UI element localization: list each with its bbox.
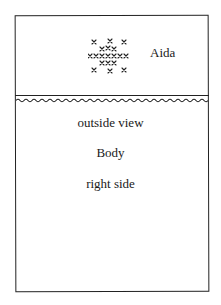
- fabric-label: Aida: [150, 45, 175, 61]
- wavy-seam-line: [16, 98, 208, 103]
- side-label: right side: [0, 176, 221, 192]
- view-label: outside view: [0, 115, 221, 131]
- cross-stitch-motif-icon: [88, 38, 132, 74]
- part-label: Body: [0, 145, 221, 161]
- fold-line: [15, 95, 209, 96]
